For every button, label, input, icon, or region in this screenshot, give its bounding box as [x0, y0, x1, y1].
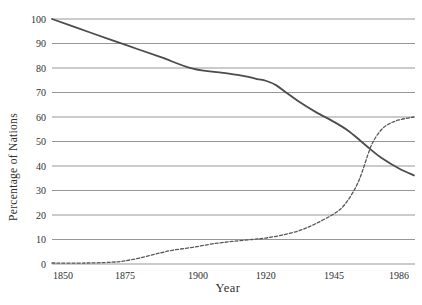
y-tick-label-70: 70	[36, 87, 46, 98]
y-tick-label-50: 50	[36, 136, 46, 147]
y-tick-label-0: 0	[41, 259, 46, 270]
y-tick-label-40: 40	[36, 161, 46, 172]
y-tick-label-60: 60	[36, 112, 46, 123]
x-tick-label-1986: 1986	[389, 270, 409, 281]
y-tick-label-30: 30	[36, 185, 46, 196]
y-tick-label-20: 20	[36, 210, 46, 221]
x-tick-label-1850: 1850	[53, 270, 73, 281]
x-axis-title: Year	[215, 281, 240, 296]
y-tick-label-80: 80	[36, 63, 46, 74]
y-tick-label-10: 10	[36, 234, 46, 245]
chart-canvas: 0102030405060708090100185018751900192019…	[0, 0, 422, 305]
x-tick-label-1945: 1945	[324, 270, 344, 281]
y-tick-label-100: 100	[31, 14, 46, 25]
x-tick-label-1920: 1920	[256, 270, 276, 281]
y-axis-title: Percentage of Nations	[7, 113, 19, 221]
y-tick-label-90: 90	[36, 38, 46, 49]
x-tick-label-1900: 1900	[188, 270, 208, 281]
x-tick-label-1875: 1875	[115, 270, 135, 281]
line-chart-figure: 0102030405060708090100185018751900192019…	[0, 0, 422, 305]
series-solid-declining-line	[52, 19, 414, 175]
